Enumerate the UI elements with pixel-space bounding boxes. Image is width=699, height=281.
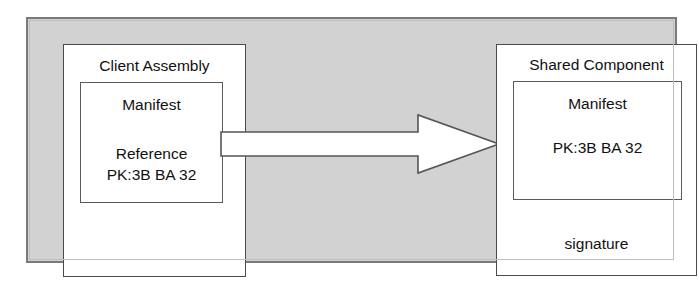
shared-manifest-heading: Manifest	[514, 95, 681, 113]
shared-manifest-public-key: PK:3B BA 32	[514, 139, 681, 157]
client-manifest-box: Manifest Reference PK:3B BA 32	[80, 82, 223, 203]
shared-component-title: Shared Component	[497, 56, 696, 74]
shared-manifest-box: Manifest PK:3B BA 32	[513, 81, 682, 200]
client-reference-label: Reference	[81, 145, 222, 163]
reference-arrow	[218, 111, 502, 177]
client-reference-public-key: PK:3B BA 32	[81, 166, 222, 184]
shared-component-box: Shared Component Manifest PK:3B BA 32 si…	[496, 44, 697, 276]
client-manifest-heading: Manifest	[81, 96, 222, 114]
diagram-canvas: Client Assembly Manifest Reference PK:3B…	[0, 0, 699, 281]
signature-label: signature	[497, 235, 696, 253]
client-assembly-title: Client Assembly	[64, 57, 245, 75]
reference-arrow-shape	[221, 115, 499, 173]
outer-container: Client Assembly Manifest Reference PK:3B…	[26, 17, 677, 263]
